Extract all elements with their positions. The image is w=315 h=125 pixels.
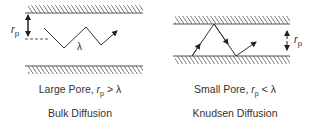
small-pore-panel [173,16,290,64]
path-arrow-2 [214,24,228,44]
path-arrow-1 [192,44,200,56]
bottom-wall-hatch [28,66,143,74]
bottom-wall-hatch [175,56,290,64]
radius-label-small: rp [294,33,302,48]
top-wall-hatch [28,5,143,13]
path-arrow-3 [236,42,256,56]
small-pore-caption: Small Pore, rp < λ [155,83,315,97]
top-wall-hatch [175,16,290,24]
bulk-diffusion-title: Bulk Diffusion [0,107,160,119]
large-pore-caption: Large Pore, rp > λ [0,83,160,97]
knudsen-diffusion-title: Knudsen Diffusion [155,107,315,119]
radius-label-large: rp [11,23,19,38]
mean-free-path-label: λ [77,41,82,52]
large-pore-panel [25,5,143,74]
